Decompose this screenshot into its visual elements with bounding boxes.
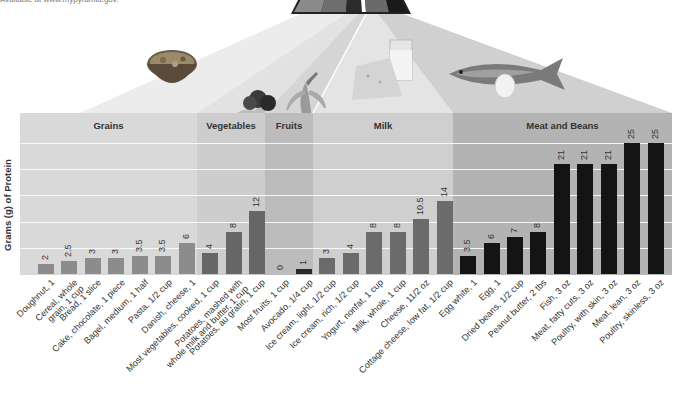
- bar-value-label: 4: [345, 244, 355, 249]
- bar: [413, 219, 429, 274]
- bar: [437, 201, 453, 274]
- group-label: Vegetables: [197, 113, 265, 139]
- bar-value-label: 12: [251, 197, 261, 207]
- bar: [249, 211, 265, 274]
- bar-value-label: 25: [650, 129, 660, 139]
- bar-value-label: 2: [40, 255, 50, 260]
- group-label: Fruits: [265, 113, 313, 139]
- cereal-bowl-icon: [145, 46, 199, 92]
- bar-value-label: 8: [228, 223, 238, 228]
- bar-value-label: 3: [321, 249, 331, 254]
- bar: [38, 264, 54, 274]
- bar-value-label: 14: [439, 187, 449, 197]
- bar: [155, 256, 171, 274]
- bar-value-label: 7: [509, 228, 519, 233]
- bar: [202, 253, 218, 274]
- y-axis-label: Grams (g) of Protein: [2, 135, 13, 275]
- group-label: Grains: [20, 113, 197, 139]
- bar-value-label: 21: [603, 150, 613, 160]
- bar: [530, 232, 546, 274]
- bar: [601, 164, 617, 274]
- bar: [460, 256, 476, 274]
- bar: [577, 164, 593, 274]
- bar: [507, 237, 523, 274]
- bar: [343, 253, 359, 274]
- bar: [554, 164, 570, 274]
- bar: [366, 232, 382, 274]
- gridline: [20, 169, 672, 170]
- protein-bar-chart: GrainsVegetablesFruitsMilkMeat and Beans…: [20, 113, 672, 275]
- bar: [319, 258, 335, 274]
- gridline: [20, 222, 672, 223]
- bar-value-label: 21: [556, 150, 566, 160]
- bar: [85, 258, 101, 274]
- bar: [132, 256, 148, 274]
- bar: [179, 243, 195, 274]
- bar-value-label: 8: [532, 223, 542, 228]
- bar: [390, 232, 406, 274]
- bar: [61, 261, 77, 274]
- food-pyramid-icon: [291, 0, 411, 14]
- fish-egg-icon: [445, 52, 575, 100]
- bar-value-label: 3.5: [134, 239, 144, 252]
- gridline: [20, 195, 672, 196]
- group-band-grains: Grains: [20, 113, 197, 275]
- bar-value-label: 8: [368, 223, 378, 228]
- bar-value-label: 8: [392, 223, 402, 228]
- bar-value-label: 3: [87, 249, 97, 254]
- bar-value-label: 25: [626, 129, 636, 139]
- bar-value-label: 2.5: [63, 244, 73, 257]
- bar-value-label: 3: [110, 249, 120, 254]
- bar-value-label: 6: [181, 234, 191, 239]
- bar-value-label: 4: [204, 244, 214, 249]
- group-band-milk: Milk: [313, 113, 453, 275]
- group-band-fruits: Fruits: [265, 113, 313, 275]
- bar: [296, 269, 312, 274]
- bar-value-label: 21: [579, 150, 589, 160]
- group-label: Meat and Beans: [453, 113, 672, 139]
- bar: [624, 143, 640, 274]
- bar: [484, 243, 500, 274]
- bar-value-label: 1: [298, 260, 308, 265]
- gridline: [20, 143, 672, 144]
- bar-value-label: 10.5: [415, 197, 425, 215]
- bar-value-label: 3.5: [462, 239, 472, 252]
- milk-cheese-icon: [350, 38, 414, 102]
- group-label: Milk: [313, 113, 453, 139]
- bar-value-label: 0: [275, 265, 285, 270]
- bar: [226, 232, 242, 274]
- bar: [648, 143, 664, 274]
- bar: [108, 258, 124, 274]
- bar-value-label: 3.5: [157, 239, 167, 252]
- bar-value-label: 6: [486, 234, 496, 239]
